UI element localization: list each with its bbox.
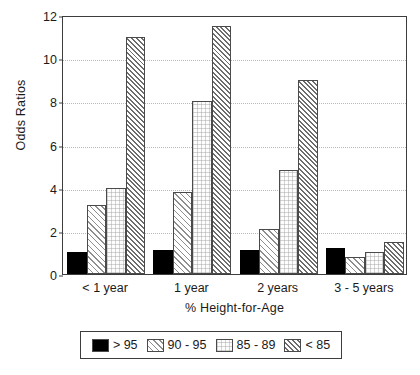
- bar-group: [67, 17, 145, 274]
- legend-label: > 95: [113, 339, 138, 352]
- legend-item[interactable]: > 95: [92, 339, 138, 352]
- chart-legend: > 9590 - 9585 - 89< 85: [80, 331, 342, 359]
- legend-label: 85 - 89: [237, 339, 276, 352]
- y-axis-tick-label: 12: [43, 11, 57, 24]
- y-axis-title: Odds Ratios: [14, 50, 28, 180]
- y-axis-tick-mark: [59, 232, 63, 233]
- bar[interactable]: [173, 192, 193, 274]
- legend-swatch: [284, 339, 301, 352]
- bar[interactable]: [212, 26, 232, 274]
- plot-area: 024681012: [62, 16, 407, 275]
- y-axis-tick-mark: [59, 17, 63, 18]
- y-axis-tick-label: 8: [50, 97, 57, 110]
- bar[interactable]: [192, 101, 212, 274]
- bar[interactable]: [384, 242, 404, 274]
- legend-item[interactable]: < 85: [284, 339, 330, 352]
- bar[interactable]: [298, 80, 318, 274]
- bar[interactable]: [87, 205, 107, 274]
- x-axis-tick-label: < 1 year: [62, 281, 148, 295]
- bar[interactable]: [153, 250, 173, 274]
- x-axis-tick-label: 3 - 5 years: [321, 281, 407, 295]
- bar-group: [326, 17, 404, 274]
- bar[interactable]: [240, 250, 260, 274]
- bar[interactable]: [279, 170, 299, 274]
- legend-item[interactable]: 85 - 89: [216, 339, 276, 352]
- legend-item[interactable]: 90 - 95: [147, 339, 207, 352]
- bar[interactable]: [345, 257, 365, 274]
- y-axis-tick-mark: [59, 146, 63, 147]
- y-axis-tick-mark: [59, 103, 63, 104]
- bar-group: [153, 17, 231, 274]
- x-axis-tick-label: 2 years: [235, 281, 321, 295]
- legend-swatch: [92, 339, 109, 352]
- bar[interactable]: [326, 248, 346, 274]
- x-axis-tick-label: 1 year: [148, 281, 234, 295]
- y-axis-tick-label: 6: [50, 140, 57, 153]
- legend-label: 90 - 95: [168, 339, 207, 352]
- bar[interactable]: [365, 252, 385, 274]
- bar-group: [240, 17, 318, 274]
- x-axis-title: % Height-for-Age: [62, 301, 407, 315]
- y-axis-tick-mark: [59, 60, 63, 61]
- bar[interactable]: [106, 188, 126, 274]
- y-axis-tick-label: 4: [50, 183, 57, 196]
- y-axis-tick-mark: [59, 189, 63, 190]
- bar[interactable]: [126, 37, 146, 274]
- y-axis-tick-label: 10: [43, 54, 57, 67]
- legend-swatch: [216, 339, 233, 352]
- bar[interactable]: [259, 229, 279, 274]
- legend-swatch: [147, 339, 164, 352]
- bar[interactable]: [67, 252, 87, 274]
- y-axis-tick-label: 0: [50, 270, 57, 283]
- legend-label: < 85: [305, 339, 330, 352]
- odds-ratios-bar-chart: Odds Ratios 024681012 % Height-for-Age >…: [0, 0, 420, 375]
- plot-inner: [63, 17, 406, 274]
- y-axis-tick-mark: [59, 276, 63, 277]
- y-axis-tick-label: 2: [50, 227, 57, 240]
